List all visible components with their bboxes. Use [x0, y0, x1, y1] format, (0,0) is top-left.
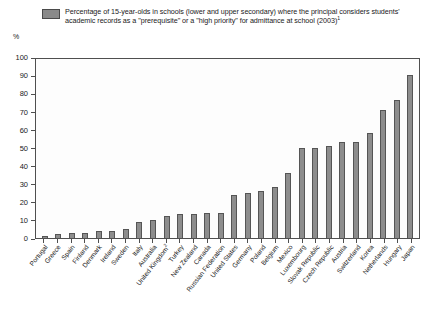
bar-slot [336, 59, 350, 238]
bar [218, 213, 224, 238]
bar-slot [79, 59, 93, 238]
bar-slot [52, 59, 66, 238]
bar [42, 236, 48, 238]
bar [380, 110, 386, 239]
bar-slot [390, 59, 404, 238]
y-axis-unit-label: % [13, 33, 19, 40]
y-axis-tick-label: 70 [20, 109, 31, 117]
y-axis-tick-label: 10 [20, 217, 31, 225]
bar [245, 193, 251, 238]
y-axis-tick-label: 100 [15, 54, 31, 62]
bar-slot [187, 59, 201, 238]
x-axis-label-slot: Japan [404, 243, 418, 309]
bar [177, 214, 183, 238]
bar-slot [241, 59, 255, 238]
y-axis-tick-label: 0 [24, 235, 31, 243]
x-axis-labels: PortugalGreeceSpainFinlandDenmarkIreland… [35, 243, 420, 309]
bar-slot [146, 59, 160, 238]
legend-footnote-marker: 1 [337, 15, 340, 21]
bar-slot [200, 59, 214, 238]
bar [164, 216, 170, 238]
bar [353, 142, 359, 238]
bar-slot [133, 59, 147, 238]
bar [150, 220, 156, 238]
legend-label-text: Percentage of 15-year-olds in schools (l… [65, 7, 400, 25]
bar-slot [349, 59, 363, 238]
bar [204, 213, 210, 238]
bar [312, 148, 318, 239]
bar-slot [255, 59, 269, 238]
plot-area [35, 58, 420, 239]
bar [136, 222, 142, 238]
bar-slot [227, 59, 241, 238]
bar [96, 231, 102, 238]
y-axis-tick-label: 20 [20, 199, 31, 207]
bar-slot [309, 59, 323, 238]
bar [258, 191, 264, 238]
chart-figure: Percentage of 15-year-olds in schools (l… [0, 0, 427, 309]
bar-series [36, 59, 419, 238]
y-axis: 0102030405060708090100 [0, 58, 35, 239]
bar-slot [106, 59, 120, 238]
bar [339, 142, 345, 238]
y-axis-tick-label: 30 [20, 181, 31, 189]
bar [231, 195, 237, 238]
bar-slot [295, 59, 309, 238]
bar-slot [214, 59, 228, 238]
bar-slot [403, 59, 417, 238]
bar [123, 229, 129, 238]
bar-slot [65, 59, 79, 238]
bar-slot [376, 59, 390, 238]
y-axis-tick-label: 80 [20, 90, 31, 98]
bar-slot [119, 59, 133, 238]
legend-label: Percentage of 15-year-olds in schools (l… [65, 7, 402, 25]
bar [272, 187, 278, 238]
bar-slot [160, 59, 174, 238]
bar-slot [363, 59, 377, 238]
x-axis-label-footnote-marker: 2 [163, 243, 169, 248]
bar-slot [92, 59, 106, 238]
bar-slot [282, 59, 296, 238]
bar [367, 133, 373, 238]
chart-legend: Percentage of 15-year-olds in schools (l… [42, 7, 402, 25]
legend-swatch [42, 9, 60, 19]
bar [191, 214, 197, 238]
bar [299, 148, 305, 239]
y-axis-tick-label: 40 [20, 163, 31, 171]
y-axis-tick-label: 90 [20, 72, 31, 80]
y-axis-tick-label: 60 [20, 127, 31, 135]
bar [326, 146, 332, 238]
bar [109, 231, 115, 238]
bar-slot [322, 59, 336, 238]
bar [394, 100, 400, 238]
bar [69, 233, 75, 238]
bar-slot [268, 59, 282, 238]
bar-slot [173, 59, 187, 238]
bar-slot [38, 59, 52, 238]
bar [55, 234, 61, 238]
bar [285, 173, 291, 238]
bar [82, 233, 88, 238]
bar [407, 75, 413, 238]
y-axis-tick-label: 50 [20, 145, 31, 153]
